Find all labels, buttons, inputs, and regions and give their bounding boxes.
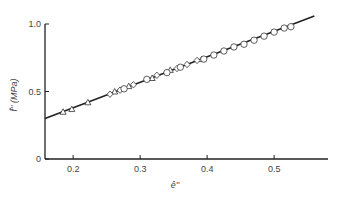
x-tick-label: 0.3: [134, 164, 147, 174]
y-ticks: 00.51.0: [28, 19, 49, 164]
data-point-circle: [144, 76, 150, 82]
data-point-diamond: [184, 61, 190, 67]
data-point-circle: [281, 25, 287, 31]
y-tick-label: 1.0: [28, 19, 41, 29]
x-tick-label: 0.5: [268, 164, 281, 174]
data-point-circle: [121, 86, 127, 92]
y-tick-label: 0: [36, 154, 41, 164]
data-point-circle: [164, 69, 170, 75]
x-tick-label: 0.4: [201, 164, 214, 174]
data-point-circle: [288, 24, 294, 30]
axes: [45, 24, 328, 159]
data-point-circle: [271, 29, 277, 35]
data-point-circle: [177, 64, 183, 70]
x-ticks: 0.20.30.40.5: [67, 155, 281, 174]
x-tick-label: 0.2: [67, 164, 80, 174]
data-point-diamond: [194, 57, 200, 63]
chart: 0.20.30.40.5 00.51.0 ê'' f̂'' (MPa): [0, 0, 341, 199]
data-point-circle: [231, 44, 237, 50]
y-axis-label: f̂'' (MPa): [9, 79, 19, 112]
data-point-diamond: [107, 91, 113, 97]
data-point-diamond: [130, 82, 136, 88]
data-point-circle: [201, 56, 207, 62]
data-point-diamond: [154, 72, 160, 78]
x-axis-label: ê'': [171, 180, 180, 190]
data-point-circle: [221, 48, 227, 54]
data-point-circle: [211, 52, 217, 58]
data-point-circle: [241, 41, 247, 47]
y-tick-label: 0.5: [28, 87, 41, 97]
data-point-circle: [251, 37, 257, 43]
data-point-circle: [261, 33, 267, 39]
